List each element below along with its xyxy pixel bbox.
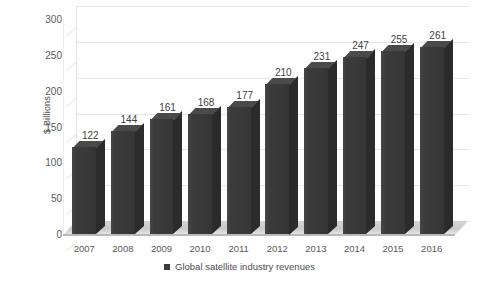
data-label: 255: [391, 34, 408, 45]
data-label: 144: [121, 114, 138, 125]
bar[interactable]: [381, 51, 405, 234]
x-axis-tick-label: 2008: [112, 243, 133, 254]
x-axis-tick-label: 2014: [344, 243, 365, 254]
legend-swatch-icon: [164, 264, 170, 270]
gridline: [77, 6, 469, 7]
x-axis-tick-label: 2007: [74, 243, 95, 254]
y-axis-tick-label: 100: [28, 157, 62, 168]
data-label: 161: [159, 102, 176, 113]
data-label: 261: [429, 30, 446, 41]
bar[interactable]: [420, 47, 444, 234]
y-axis-tick-label: 300: [28, 14, 62, 25]
bar[interactable]: [343, 57, 367, 234]
gridline: [77, 42, 469, 43]
bar-side-face: [289, 75, 298, 234]
bar-front-face: [111, 131, 135, 234]
bar-side-face: [135, 123, 144, 234]
bar[interactable]: [72, 147, 96, 234]
y-axis-tick-label: 150: [28, 121, 62, 132]
bar-side-face: [251, 99, 260, 234]
x-axis-tick-label: 2010: [190, 243, 211, 254]
bar-side-face: [366, 49, 375, 234]
bar-front-face: [343, 57, 367, 234]
y-axis-tick-label: 250: [28, 49, 62, 60]
data-label: 247: [352, 40, 369, 51]
bar[interactable]: [265, 84, 289, 235]
bar-front-face: [227, 107, 251, 234]
bar-side-face: [173, 111, 182, 234]
bar-side-face: [96, 138, 105, 234]
bar[interactable]: [150, 119, 174, 234]
y-axis-tick-label: 0: [28, 229, 62, 240]
bar-chart: $ Billions 050100150200250300 2007200820…: [0, 0, 479, 285]
x-axis-tick-label: 2012: [267, 243, 288, 254]
x-axis-tick-label: 2011: [228, 243, 248, 254]
bar[interactable]: [188, 114, 212, 234]
data-label: 210: [275, 67, 292, 78]
bar-front-face: [265, 84, 289, 235]
chart-legend: Global satellite industry revenues: [0, 261, 479, 272]
x-axis-tick-label: 2016: [421, 243, 442, 254]
y-axis-tick-label: 200: [28, 85, 62, 96]
x-axis-tick-label: 2013: [305, 243, 326, 254]
data-label: 168: [198, 97, 215, 108]
bar-side-face: [212, 106, 221, 234]
bar[interactable]: [227, 107, 251, 234]
chart-left-wall-edge: [63, 19, 64, 234]
chart-floor-front-edge: [63, 234, 455, 236]
bar-side-face: [328, 60, 337, 234]
bar-front-face: [188, 114, 212, 234]
data-label: 122: [82, 130, 99, 141]
bar[interactable]: [111, 131, 135, 234]
x-axis-tick-label: 2009: [151, 243, 172, 254]
y-axis-tick-label: 50: [28, 193, 62, 204]
x-axis-tick-label: 2015: [383, 243, 404, 254]
bar-front-face: [420, 47, 444, 234]
bar[interactable]: [304, 68, 328, 234]
y-axis-tick-labels: 050100150200250300: [0, 0, 62, 285]
bar-side-face: [405, 43, 414, 234]
legend-item-label: Global satellite industry revenues: [175, 261, 315, 272]
bar-front-face: [304, 68, 328, 234]
data-label: 177: [236, 90, 253, 101]
bar-front-face: [72, 147, 96, 234]
x-axis-tick-labels: 2007200820092010201120122013201420152016: [63, 243, 468, 259]
bar-side-face: [444, 39, 453, 234]
data-label: 231: [314, 51, 331, 62]
bar-front-face: [150, 119, 174, 234]
bar-front-face: [381, 51, 405, 234]
